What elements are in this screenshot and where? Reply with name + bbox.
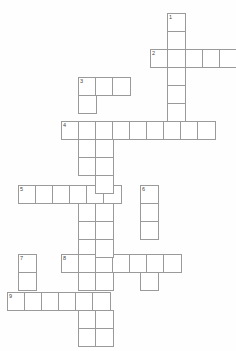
- crossword-cell[interactable]: [95, 239, 114, 258]
- crossword-cell-numbered-3[interactable]: 3: [78, 77, 97, 96]
- crossword-cell[interactable]: [78, 95, 97, 114]
- crossword-cell[interactable]: [75, 292, 94, 311]
- crossword-cell[interactable]: [78, 203, 97, 222]
- crossword-cell[interactable]: [140, 203, 159, 222]
- crossword-clue-number: 6: [142, 186, 145, 192]
- crossword-cell[interactable]: [140, 221, 159, 240]
- crossword-cell[interactable]: [167, 103, 186, 122]
- crossword-clue-number: 9: [9, 293, 12, 299]
- crossword-cell[interactable]: [146, 121, 165, 140]
- crossword-cell[interactable]: [78, 310, 97, 329]
- crossword-cell[interactable]: [163, 254, 182, 273]
- crossword-cell[interactable]: [78, 121, 97, 140]
- crossword-cell-numbered-5[interactable]: 5: [18, 185, 37, 204]
- crossword-cell[interactable]: [92, 292, 111, 311]
- crossword-cell[interactable]: [180, 121, 199, 140]
- crossword-cell[interactable]: [95, 203, 114, 222]
- crossword-cell[interactable]: [95, 77, 114, 96]
- crossword-cell[interactable]: [24, 292, 43, 311]
- crossword-cell[interactable]: [78, 139, 97, 158]
- crossword-cell-numbered-1[interactable]: 1: [167, 13, 186, 32]
- crossword-cell[interactable]: [58, 292, 77, 311]
- crossword-cell[interactable]: [78, 328, 97, 347]
- crossword-cell-numbered-2[interactable]: 2: [150, 49, 169, 68]
- crossword-cell[interactable]: [69, 185, 88, 204]
- crossword-cell-numbered-6[interactable]: 6: [140, 185, 159, 204]
- crossword-cell[interactable]: [95, 175, 114, 194]
- crossword-cell[interactable]: [167, 67, 186, 86]
- crossword-cell[interactable]: [167, 85, 186, 104]
- crossword-cell[interactable]: [52, 185, 71, 204]
- crossword-cell[interactable]: [95, 310, 114, 329]
- crossword-clue-number: 2: [152, 50, 155, 56]
- crossword-cell[interactable]: [185, 49, 204, 68]
- crossword-cell[interactable]: [41, 292, 60, 311]
- crossword-cell[interactable]: [112, 254, 131, 273]
- crossword-cell[interactable]: [219, 49, 236, 68]
- crossword-cell[interactable]: [95, 121, 114, 140]
- crossword-cell[interactable]: [78, 272, 97, 291]
- crossword-cell[interactable]: [35, 185, 54, 204]
- crossword-clue-number: 1: [169, 14, 172, 20]
- crossword-cell[interactable]: [78, 221, 97, 240]
- crossword-cell[interactable]: [112, 77, 131, 96]
- crossword-cell-numbered-9[interactable]: 9: [7, 292, 26, 311]
- crossword-cell[interactable]: [78, 157, 97, 176]
- crossword-cell[interactable]: [95, 157, 114, 176]
- crossword-cell[interactable]: [129, 254, 148, 273]
- crossword-cell-numbered-7[interactable]: 7: [18, 254, 37, 273]
- crossword-cell[interactable]: [95, 221, 114, 240]
- crossword-clue-number: 4: [63, 122, 66, 128]
- crossword-cell[interactable]: [197, 121, 216, 140]
- crossword-cell[interactable]: [167, 49, 186, 68]
- crossword-cell[interactable]: [129, 121, 148, 140]
- crossword-clue-number: 5: [20, 186, 23, 192]
- crossword-clue-number: 3: [80, 78, 83, 84]
- crossword-clue-number: 7: [20, 255, 23, 261]
- crossword-cell[interactable]: [146, 254, 165, 273]
- crossword-cell[interactable]: [95, 272, 114, 291]
- crossword-cell[interactable]: [163, 121, 182, 140]
- crossword-cell[interactable]: [95, 328, 114, 347]
- crossword-cell[interactable]: [140, 272, 159, 291]
- crossword-cell[interactable]: [95, 139, 114, 158]
- crossword-cell[interactable]: [202, 49, 221, 68]
- crossword-grid[interactable]: 123456789: [0, 0, 236, 351]
- crossword-cell-numbered-4[interactable]: 4: [61, 121, 80, 140]
- crossword-cell[interactable]: [112, 121, 131, 140]
- crossword-cell[interactable]: [78, 254, 97, 273]
- crossword-cell[interactable]: [18, 272, 37, 291]
- crossword-clue-number: 8: [63, 255, 66, 261]
- crossword-cell-numbered-8[interactable]: 8: [61, 254, 80, 273]
- crossword-cell[interactable]: [167, 31, 186, 50]
